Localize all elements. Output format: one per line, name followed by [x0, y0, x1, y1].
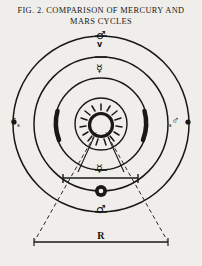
mars-right-symbol: ♂ — [171, 114, 179, 126]
mars-left-subscript: s — [17, 122, 19, 128]
filled-disc-marker — [95, 185, 107, 197]
arc-segment-left — [56, 111, 59, 140]
mars-right-label: s♂ — [169, 115, 180, 128]
baseline-trapezoid — [34, 124, 168, 242]
mars-left-label: ♂s — [9, 115, 20, 128]
mercury-top-symbol: ☿ — [96, 62, 103, 75]
arc-segment-right — [143, 111, 146, 140]
dot-marker-right — [185, 119, 190, 124]
mars-bottom-symbol: ♂ — [96, 203, 106, 216]
chevron-top-marker: v — [97, 40, 102, 49]
mercury-bottom-symbol: ☿ — [96, 162, 103, 175]
figure-page: Fig. 2. Comparison of Mercury and Mars C… — [0, 0, 202, 266]
mars-left-symbol: ♂ — [9, 114, 17, 126]
baseline-r-label: R — [0, 231, 202, 241]
sun-icon — [80, 104, 122, 145]
measure-bracket — [63, 174, 138, 183]
